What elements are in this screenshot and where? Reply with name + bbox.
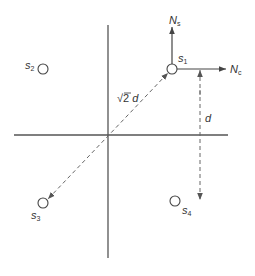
signal-point-s2 <box>38 64 48 74</box>
signal-point-s1 <box>167 64 177 74</box>
label-ns-sub: s <box>177 20 181 27</box>
signal-point-s3 <box>38 198 48 208</box>
label-s4-sub: 4 <box>188 210 192 217</box>
label-ns-base: N <box>169 14 177 26</box>
label-vertical-distance: d <box>205 113 211 124</box>
signal-point-s4 <box>170 196 180 206</box>
label-s3-sub: 3 <box>37 215 41 222</box>
label-s1-sub: 1 <box>184 58 188 65</box>
label-nc-sub: c <box>238 69 242 76</box>
label-nc-base: N <box>230 63 238 75</box>
label-sqrt2: √2 <box>117 92 129 104</box>
label-diag-d: d <box>132 92 138 104</box>
label-vert-d: d <box>205 112 211 124</box>
label-diagonal-distance: √2 d <box>117 93 138 104</box>
label-ns: Ns <box>169 15 180 27</box>
label-s3: s3 <box>31 210 40 222</box>
constellation-diagram <box>0 0 255 276</box>
label-s2: s2 <box>25 60 34 72</box>
label-s1: s1 <box>178 53 187 65</box>
label-nc: Nc <box>230 64 241 76</box>
label-s2-sub: 2 <box>31 65 35 72</box>
label-s4: s4 <box>182 205 191 217</box>
